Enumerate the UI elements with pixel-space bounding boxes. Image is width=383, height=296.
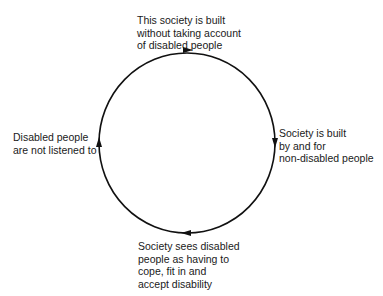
node-bottom-line-4: accept disability [138, 278, 240, 291]
node-left: Disabled people are not listened to [13, 131, 96, 156]
node-right-line-1: Society is built [279, 127, 374, 140]
node-bottom-line-3: cope, fit in and [138, 265, 240, 278]
cycle-circle [99, 53, 275, 233]
node-bottom: Society sees disabled people as having t… [138, 240, 240, 290]
arrow-right-icon [272, 138, 278, 148]
arrow-left-icon [96, 137, 102, 147]
node-left-line-2: are not listened to [13, 144, 96, 157]
node-top-line-2: without taking account [137, 27, 241, 40]
arrow-bottom-icon [181, 230, 191, 236]
node-right-line-2: by and for [279, 140, 374, 153]
node-left-line-1: Disabled people [13, 131, 96, 144]
node-bottom-line-1: Society sees disabled [138, 240, 240, 253]
node-right: Society is built by and for non-disabled… [279, 127, 374, 165]
node-top: This society is built without taking acc… [137, 14, 241, 52]
node-top-line-3: of disabled people [137, 39, 241, 52]
node-top-line-1: This society is built [137, 14, 241, 27]
node-bottom-line-2: people as having to [138, 253, 240, 266]
node-right-line-3: non-disabled people [279, 152, 374, 165]
